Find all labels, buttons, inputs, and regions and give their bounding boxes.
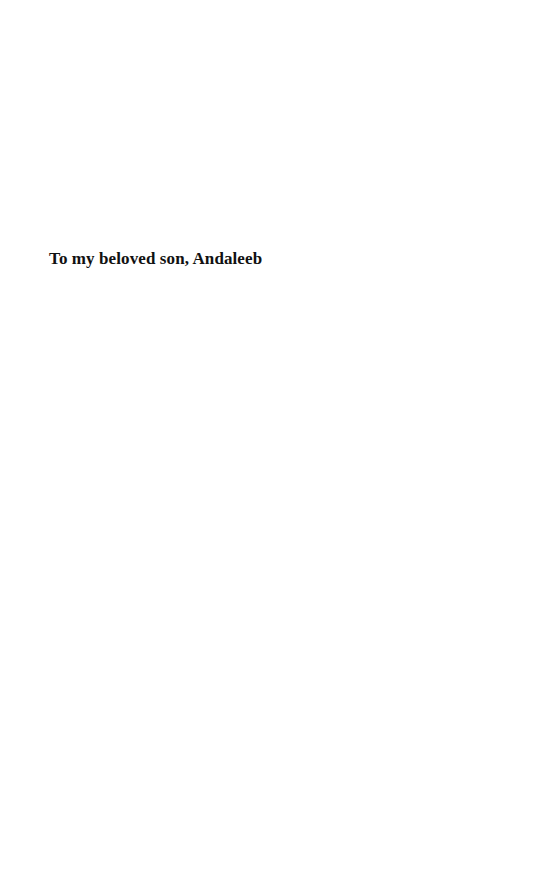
book-page: To my beloved son, Andaleeb	[0, 0, 546, 881]
dedication-text: To my beloved son, Andaleeb	[49, 249, 262, 269]
